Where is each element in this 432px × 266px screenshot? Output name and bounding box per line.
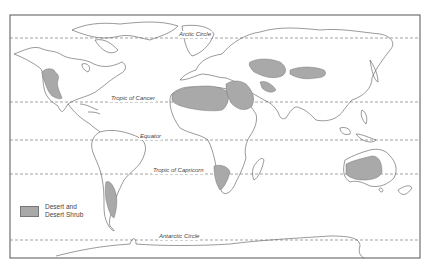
legend: Desert and Desert Shrub	[20, 203, 83, 219]
desert-sahara	[172, 86, 229, 111]
desert-iran	[260, 81, 276, 92]
south-america	[92, 130, 146, 230]
desert-australia	[346, 156, 382, 180]
world-map	[0, 0, 432, 266]
antarctica	[56, 236, 364, 258]
label-arctic-circle: Arctic Circle	[178, 31, 212, 38]
label-equator: Equator	[139, 133, 162, 140]
desert-regions	[42, 59, 382, 218]
desert-north-america	[42, 69, 62, 99]
desert-arabia	[226, 81, 254, 110]
legend-swatch-desert	[20, 206, 39, 217]
label-tropic-of-cancer: Tropic of Cancer	[110, 95, 156, 102]
desert-central-asia-1	[249, 59, 285, 78]
desert-central-asia-2	[290, 67, 326, 79]
label-tropic-of-capricorn: Tropic of Capricorn	[152, 167, 205, 174]
label-antarctic-circle: Antarctic Circle	[158, 233, 200, 240]
legend-text: Desert and Desert Shrub	[45, 203, 83, 219]
legend-line-2: Desert Shrub	[45, 211, 83, 219]
desert-kalahari	[214, 165, 230, 190]
legend-line-1: Desert and	[45, 203, 83, 211]
desert-patagonia	[105, 182, 117, 218]
